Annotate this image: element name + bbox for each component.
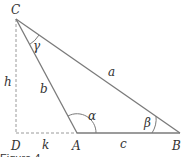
- vertex-label-d: D: [10, 139, 21, 153]
- side-label-b: b: [40, 82, 48, 96]
- vertex-label-b: B: [171, 139, 181, 153]
- side-label-c: c: [120, 137, 127, 151]
- vertex-label-a: A: [71, 139, 81, 153]
- angle-label-alpha: α: [88, 109, 96, 123]
- triangle-diagram: C D A B a b c h k γ α β Figure 4: [0, 0, 181, 157]
- vertex-label-c: C: [11, 3, 20, 17]
- side-b: [16, 19, 77, 133]
- side-label-a: a: [108, 65, 115, 79]
- angle-label-gamma: γ: [33, 39, 41, 53]
- angle-arc-beta: [152, 116, 156, 133]
- side-label-k: k: [42, 138, 49, 152]
- side-a: [16, 19, 180, 133]
- side-label-h: h: [4, 75, 12, 89]
- angle-label-beta: β: [143, 116, 151, 130]
- figure-caption: Figure 4: [0, 152, 40, 157]
